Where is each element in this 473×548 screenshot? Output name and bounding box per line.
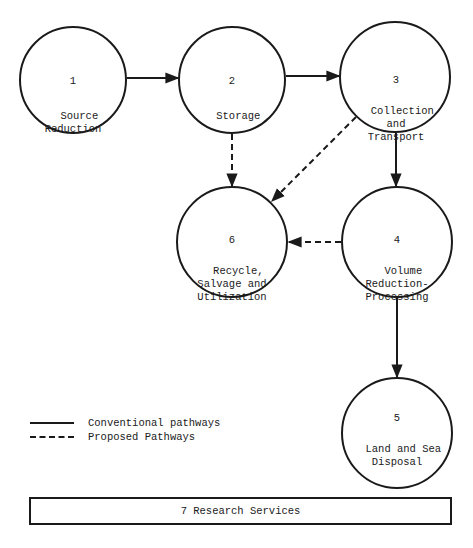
node-5-text: Land and Sea Disposal (365, 443, 441, 468)
legend-row-conventional: Conventional pathways (30, 416, 220, 430)
node-1-number: 1 (45, 75, 102, 88)
node-5-label: 5 Land and Sea Disposal (353, 386, 441, 469)
legend: Conventional pathways Proposed Pathways (30, 416, 220, 444)
node-3-text: Collection and Transport (368, 105, 434, 143)
node-5-number: 5 (353, 412, 441, 425)
legend-conventional-label: Conventional pathways (88, 416, 220, 430)
node-4-label: 4 Volume Reduction- Processing (365, 208, 428, 304)
node-1-label: 1 Source Reduction (45, 49, 102, 136)
legend-proposed-label: Proposed Pathways (88, 430, 195, 444)
dashed-line-icon (30, 436, 74, 438)
node-1-text: Source Reduction (45, 110, 102, 135)
research-services-box: 7 Research Services (29, 497, 452, 525)
edge-3-to-6-proposed (272, 117, 356, 201)
node-6-text: Recycle, Salvage and Utilization (197, 265, 266, 303)
node-2-text: Storage (216, 110, 260, 122)
research-services-label: 7 Research Services (181, 505, 301, 517)
node-4-text: Volume Reduction- Processing (365, 265, 428, 303)
solid-line-icon (30, 422, 74, 424)
node-6-number: 6 (197, 234, 266, 247)
node-3-number: 3 (358, 74, 434, 87)
node-2-number: 2 (204, 75, 261, 88)
node-2-label: 2 Storage (204, 49, 261, 123)
node-6-label: 6 Recycle, Salvage and Utilization (197, 208, 266, 304)
legend-row-proposed: Proposed Pathways (30, 430, 220, 444)
node-4-number: 4 (365, 234, 428, 247)
node-3-label: 3 Collection and Transport (358, 48, 434, 144)
